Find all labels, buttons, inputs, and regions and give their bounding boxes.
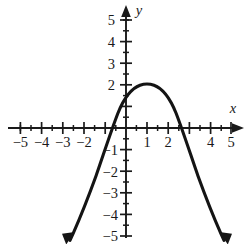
parabola-curve [62,84,232,244]
y-label-pos2: 2 [108,77,115,93]
x-axis-label: x [229,100,237,116]
x-label-neg2: −2 [76,134,91,150]
x-label-pos5: 5 [227,134,234,150]
y-axis-arrow-icon [121,5,131,17]
y-axis-label: y [134,2,143,18]
y-label-neg3: −3 [103,185,118,201]
x-label-pos4: 4 [207,134,215,150]
y-label-neg1: −1 [103,142,118,158]
y-label-neg5: −5 [103,228,118,244]
y-label-neg4: −4 [103,207,119,223]
y-label-pos3: 3 [108,56,115,72]
parabola-path [70,84,224,240]
x-label-pos1: 1 [143,134,150,150]
x-label-neg4: −4 [34,134,50,150]
x-label-neg5: −5 [13,134,28,150]
y-label-pos4: 4 [108,34,116,50]
y-label-pos5: 5 [108,12,115,28]
graph-figure: −5 −4 −3 −2 1 2 4 5 5 4 3 2 −1 −2 −3 −4 … [0,0,251,244]
x-label-neg3: −3 [55,134,70,150]
y-label-neg2: −2 [103,164,118,180]
x-axis-arrow-icon [232,123,244,133]
coordinate-plane-svg: −5 −4 −3 −2 1 2 4 5 5 4 3 2 −1 −2 −3 −4 … [0,0,251,244]
x-label-pos2: 2 [165,134,172,150]
x-axis-tick-labels: −5 −4 −3 −2 1 2 4 5 [13,134,235,150]
